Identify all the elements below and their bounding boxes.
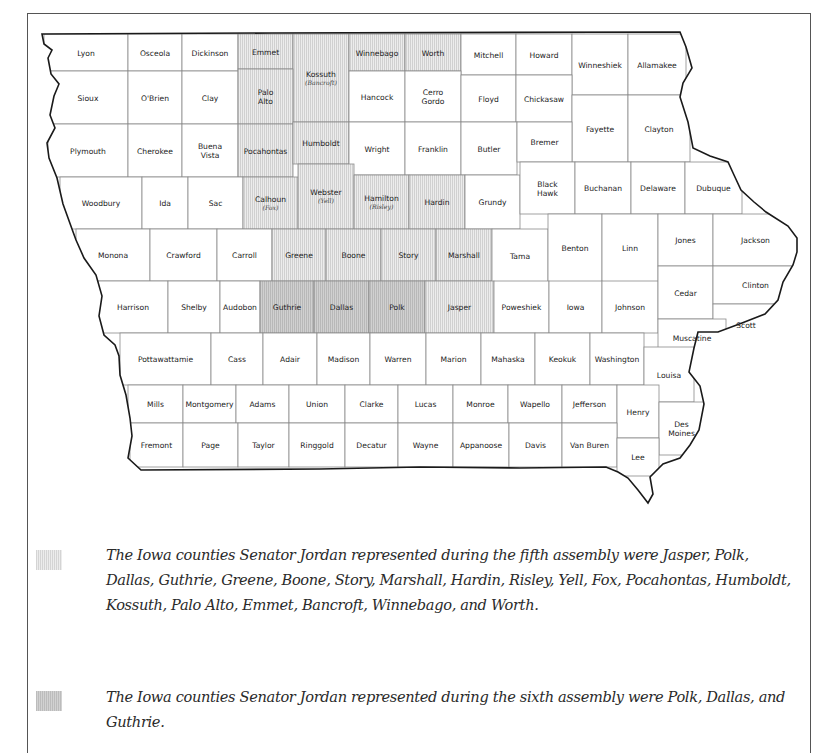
county-label-muscatine: Muscatine xyxy=(673,334,712,343)
county-label-black-hawk: BlackHawk xyxy=(537,180,559,198)
county-label-greene: Greene xyxy=(285,251,313,260)
county-label-boone: Boone xyxy=(342,251,366,260)
county-label-appanoose: Appanoose xyxy=(460,441,503,450)
county-label-bremer: Bremer xyxy=(530,138,559,147)
county-label-marion: Marion xyxy=(441,355,467,364)
county-label-cedar: Cedar xyxy=(674,289,697,298)
sixth-assembly-swatch-icon xyxy=(36,691,62,711)
county-label-carroll: Carroll xyxy=(232,251,257,260)
county-label-pocahontas: Pocahontas xyxy=(244,147,288,156)
county-label-buena-vista: BuenaVista xyxy=(198,142,222,160)
county-label-clay: Clay xyxy=(202,94,219,103)
county-label-davis: Davis xyxy=(525,441,546,450)
county-label-johnson: Johnson xyxy=(614,303,645,312)
county-label-adams: Adams xyxy=(250,400,276,409)
county-label-harrison: Harrison xyxy=(117,303,149,312)
county-label-marshall: Marshall xyxy=(448,251,480,260)
county-label-dickinson: Dickinson xyxy=(192,49,229,58)
county-label-union: Union xyxy=(306,400,328,409)
county-label-fremont: Fremont xyxy=(141,441,172,450)
county-label-allamakee: Allamakee xyxy=(637,61,677,70)
county-label-mahaska: Mahaska xyxy=(491,355,525,364)
county-label-winnebago: Winnebago xyxy=(356,49,399,58)
county-label-washington: Washington xyxy=(595,355,640,364)
county-label-cass: Cass xyxy=(228,355,246,364)
legend-text-sixth-assembly: The Iowa counties Senator Jordan represe… xyxy=(106,684,796,734)
county-former-name-calhoun: (Fox) xyxy=(263,204,280,211)
county-label-jasper: Jasper xyxy=(447,303,472,312)
county-label-henry: Henry xyxy=(627,408,650,417)
iowa-county-map: LyonOsceolaDickinsonEmmetKossuth(Bancrof… xyxy=(0,0,823,520)
county-label-humboldt: Humboldt xyxy=(302,139,339,148)
county-label-mills: Mills xyxy=(147,400,164,409)
county-label-clayton: Clayton xyxy=(645,125,674,134)
county-label-audobon: Audobon xyxy=(223,303,257,312)
county-label-guthrie: Guthrie xyxy=(273,303,302,312)
county-label-delaware: Delaware xyxy=(640,184,676,193)
county-label-crawford: Crawford xyxy=(166,251,201,260)
county-label-butler: Butler xyxy=(478,145,502,154)
county-label-wayne: Wayne xyxy=(413,441,439,450)
county-label-kossuth: Kossuth xyxy=(306,70,336,79)
county-label-dallas: Dallas xyxy=(330,303,353,312)
county-label-wapello: Wapello xyxy=(520,400,550,409)
county-label-taylor: Taylor xyxy=(251,441,275,450)
county-label-lee: Lee xyxy=(631,453,645,462)
county-label-story: Story xyxy=(398,251,419,260)
county-label-hancock: Hancock xyxy=(361,93,394,102)
county-label-floyd: Floyd xyxy=(478,95,499,104)
county-label-iowa: Iowa xyxy=(567,303,585,312)
county-label-linn: Linn xyxy=(622,244,638,253)
county-label-poweshiek: Poweshiek xyxy=(502,303,542,312)
county-label-lyon: Lyon xyxy=(77,49,95,58)
county-label-winneshiek: Winneshiek xyxy=(578,61,622,70)
county-label-worth: Worth xyxy=(422,49,445,58)
county-label-chickasaw: Chickasaw xyxy=(524,95,564,104)
county-label-tama: Tama xyxy=(509,252,530,261)
county-label-wright: Wright xyxy=(364,145,389,154)
county-label-lucas: Lucas xyxy=(415,400,437,409)
county-former-name-hamilton: (Risley) xyxy=(370,203,394,211)
county-label-monona: Monona xyxy=(98,251,128,260)
county-label-madison: Madison xyxy=(328,355,360,364)
county-label-polk: Polk xyxy=(389,303,405,312)
county-label-page: Page xyxy=(201,441,220,450)
county-label-louisa: Louisa xyxy=(657,371,681,380)
county-label-fayette: Fayette xyxy=(586,125,614,134)
county-label-calhoun: Calhoun xyxy=(255,195,286,204)
county-label-warren: Warren xyxy=(384,355,411,364)
county-label-buchanan: Buchanan xyxy=(584,184,622,193)
county-label-decatur: Decatur xyxy=(356,441,387,450)
county-label-montgomery: Montgomery xyxy=(185,400,234,409)
county-label-plymouth: Plymouth xyxy=(70,147,106,156)
county-label-shelby: Shelby xyxy=(181,303,207,312)
county-label-sac: Sac xyxy=(209,199,223,208)
county-label-clinton: Clinton xyxy=(742,281,769,290)
county-label-o-brien: O'Brien xyxy=(141,94,169,103)
county-label-mitchell: Mitchell xyxy=(474,51,504,60)
county-label-benton: Benton xyxy=(561,244,588,253)
county-label-jones: Jones xyxy=(674,236,695,245)
county-label-clarke: Clarke xyxy=(360,400,384,409)
county-label-jefferson: Jefferson xyxy=(572,400,607,409)
county-label-cerro-gordo: CerroGordo xyxy=(422,88,445,106)
county-label-adair: Adair xyxy=(280,355,301,364)
county-label-dubuque: Dubuque xyxy=(696,184,731,193)
legend-text-fifth-assembly: The Iowa counties Senator Jordan represe… xyxy=(106,542,796,617)
county-label-hamilton: Hamilton xyxy=(364,194,399,203)
county-label-pottawattamie: Pottawattamie xyxy=(138,355,194,364)
county-label-hardin: Hardin xyxy=(424,198,449,207)
county-label-van-buren: Van Buren xyxy=(570,441,609,450)
county-label-ringgold: Ringgold xyxy=(300,441,334,450)
county-label-osceola: Osceola xyxy=(140,49,170,58)
county-label-scott: Scott xyxy=(736,321,756,330)
county-label-grundy: Grundy xyxy=(479,198,507,207)
county-label-keokuk: Keokuk xyxy=(549,355,577,364)
county-label-howard: Howard xyxy=(529,51,558,60)
county-label-ida: Ida xyxy=(159,199,171,208)
county-label-sioux: Sioux xyxy=(78,94,99,103)
fifth-assembly-swatch-icon xyxy=(36,550,62,570)
county-label-franklin: Franklin xyxy=(418,145,448,154)
county-former-name-webster: (Yell) xyxy=(318,197,335,204)
county-label-woodbury: Woodbury xyxy=(82,199,121,208)
